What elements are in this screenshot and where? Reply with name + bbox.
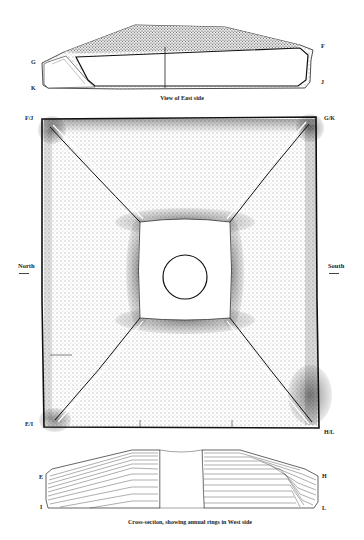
north-indicator: North (18, 262, 35, 274)
south-tick (329, 273, 339, 274)
drawing-canvas (0, 0, 364, 540)
corner-label-fj: F/J (25, 115, 33, 121)
label-i: I (40, 504, 42, 510)
corner-label-ei: E/I (25, 421, 33, 427)
cross-section (46, 450, 318, 508)
corner-label-gk: G/K (324, 115, 335, 121)
south-indicator: South (328, 262, 344, 274)
east-view-caption: View of East side (160, 95, 204, 101)
east-side-view (42, 25, 313, 89)
label-g: G (31, 59, 36, 65)
label-h: H (322, 473, 327, 479)
north-label: North (18, 262, 35, 269)
label-k: K (31, 85, 36, 91)
plan-view (38, 114, 332, 432)
north-tick (19, 273, 29, 274)
cross-section-caption: Cross-section, showing annual rings in W… (128, 519, 252, 525)
corner-label-hl: H/L (324, 429, 334, 435)
label-f: F (321, 43, 325, 49)
label-j: J (321, 79, 324, 85)
label-e: E (39, 474, 43, 480)
south-label: South (328, 262, 344, 269)
label-l: L (322, 505, 326, 511)
